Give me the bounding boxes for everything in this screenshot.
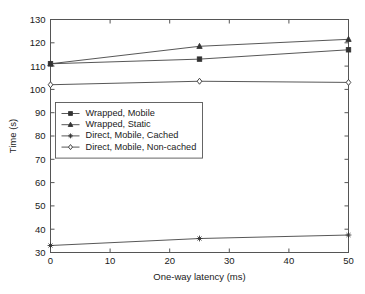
y-tick-label: 50: [35, 200, 46, 211]
y-axis-title: Time (s): [7, 119, 18, 153]
y-tick-label: 30: [35, 247, 46, 258]
x-tick-label: 10: [105, 255, 116, 266]
x-tick-label: 20: [164, 255, 175, 266]
data-point-marker: [346, 48, 350, 52]
y-tick-label: 100: [30, 84, 46, 95]
series-direct-mobile-non-cached: [48, 78, 351, 87]
chart-figure: 30405060708090100110120130 01020304050 W…: [0, 0, 365, 294]
chart-legend: Wrapped, MobileWrapped, StaticDirect, Mo…: [56, 103, 203, 159]
y-tick-label: 80: [35, 130, 46, 141]
data-point-marker: [346, 36, 351, 41]
y-tick-label: 130: [30, 14, 46, 25]
data-point-marker: [197, 57, 201, 61]
data-point-marker: [69, 112, 73, 116]
data-point-marker: [48, 82, 53, 88]
x-tick-label: 40: [284, 255, 295, 266]
x-tick-label: 30: [224, 255, 235, 266]
y-tick-label: 70: [35, 154, 46, 165]
legend-label: Direct, Mobile, Cached: [86, 130, 179, 140]
y-tick-label: 40: [35, 224, 46, 235]
x-axis-title: One-way latency (ms): [153, 271, 245, 282]
legend-label: Wrapped, Static: [86, 119, 152, 129]
legend-label: Direct, Mobile, Non-cached: [86, 142, 197, 152]
y-tick-label: 120: [30, 37, 46, 48]
series-wrapped-mobile: [48, 48, 350, 66]
y-tick-label: 60: [35, 177, 46, 188]
x-tick-label: 50: [343, 255, 354, 266]
y-tick-label: 90: [35, 107, 46, 118]
data-point-marker: [346, 79, 351, 85]
data-point-marker: [197, 78, 202, 84]
chart-canvas: 30405060708090100110120130 01020304050 W…: [0, 0, 365, 294]
data-point-marker: [48, 243, 54, 249]
data-point-marker: [346, 232, 352, 238]
y-tick-label: 110: [30, 61, 45, 72]
series-direct-mobile-cached: [48, 232, 352, 248]
data-point-marker: [197, 236, 203, 242]
legend-label: Wrapped, Mobile: [86, 108, 155, 118]
x-tick-label: 0: [48, 255, 53, 266]
